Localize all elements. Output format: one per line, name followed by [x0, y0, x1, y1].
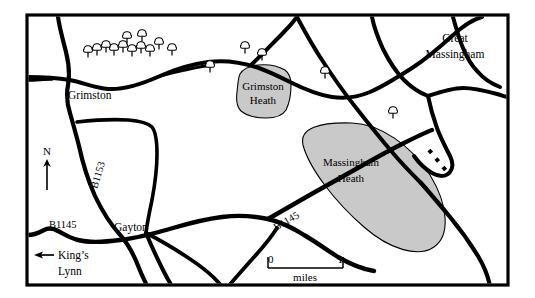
scale-bar-left-value: 0 [268, 253, 274, 265]
road-label-b1145-west: B1145 [49, 219, 77, 230]
place-label-gayton: Gayton [114, 221, 148, 234]
scale-bar-right-value: 1 [338, 253, 344, 265]
map-canvas: N 0 1 miles Grimston Great Massingham Ga… [0, 0, 535, 298]
heath-label-massingham-line1: Massingham [323, 156, 380, 168]
scale-bar-unit: miles [293, 271, 317, 283]
place-label-great-massingham-line1: Great [442, 32, 468, 44]
map-figure: N 0 1 miles Grimston Great Massingham Ga… [0, 0, 535, 298]
place-label-kings-lynn-line2: Lynn [58, 265, 82, 278]
heath-label-massingham-line2: Heath [338, 172, 365, 184]
heath-label-grimston-line2: Heath [250, 94, 277, 106]
heath-label-grimston-line1: Grimston [242, 80, 284, 92]
road-west-stub [28, 79, 52, 80]
place-label-great-massingham-line2: Massingham [426, 48, 485, 61]
place-label-kings-lynn-line1: King’s [58, 249, 89, 262]
place-label-grimston: Grimston [68, 89, 112, 101]
north-arrow-label: N [43, 145, 51, 157]
